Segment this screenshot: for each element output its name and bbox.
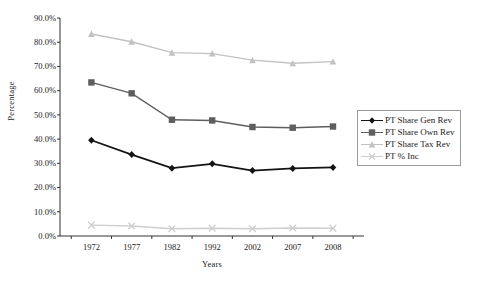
data-point-marker (290, 125, 296, 131)
legend-marker-square-icon (361, 127, 383, 138)
legend-label: PT % Inc (383, 151, 419, 162)
data-point-marker (249, 124, 255, 130)
x-axis-tick-label: 2002 (244, 243, 261, 252)
x-axis-tick-label: 1992 (204, 243, 221, 252)
data-point-marker (128, 151, 135, 158)
legend-marker-x-icon (361, 151, 383, 162)
chart-legend: PT Share Gen Rev PT Share Own Rev PT Sha… (357, 110, 461, 166)
data-point-marker (88, 137, 95, 144)
legend-item-pt-share-gen-rev[interactable]: PT Share Gen Rev (361, 114, 455, 126)
legend-label: PT Share Gen Rev (383, 115, 452, 126)
data-point-marker (88, 79, 94, 85)
legend-label: PT Share Tax Rev (383, 139, 450, 150)
data-point-marker (209, 117, 215, 123)
legend-marker-diamond-icon (361, 115, 383, 126)
x-axis-tick-label: 2007 (284, 243, 301, 252)
series-pt-share-own-rev (88, 79, 336, 131)
series-pt-share-tax-rev (88, 31, 336, 67)
data-point-marker (330, 123, 336, 129)
data-point-marker (289, 165, 296, 172)
series-pt-share-gen-rev (88, 137, 336, 174)
line-chart: 0.0%10.0%20.0%30.0%40.0%50.0%60.0%70.0%8… (0, 0, 481, 283)
x-axis-tick-label: 1982 (163, 243, 180, 252)
data-point-marker (128, 90, 134, 96)
data-point-marker (169, 117, 175, 123)
data-point-marker (209, 160, 216, 167)
x-axis-tick-label: 2008 (324, 243, 341, 252)
legend-item-pt-pct-inc[interactable]: PT % Inc (361, 150, 455, 162)
x-axis-tick-label: 1972 (83, 243, 100, 252)
legend-item-pt-share-own-rev[interactable]: PT Share Own Rev (361, 126, 455, 138)
data-point-marker (169, 165, 176, 172)
data-point-marker (249, 167, 256, 174)
legend-marker-triangle-icon (361, 139, 383, 150)
legend-label: PT Share Own Rev (383, 127, 455, 138)
data-series-layer (88, 31, 336, 232)
legend-item-pt-share-tax-rev[interactable]: PT Share Tax Rev (361, 138, 455, 150)
data-point-marker (330, 164, 337, 171)
series-pt-inc (88, 222, 336, 232)
series-line (91, 34, 333, 63)
x-axis-tick-label: 1977 (123, 243, 140, 252)
